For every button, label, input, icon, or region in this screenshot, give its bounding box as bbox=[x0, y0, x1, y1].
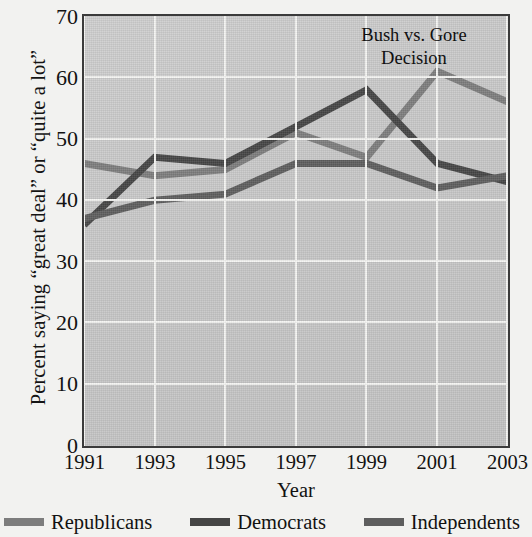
legend-swatch-icon bbox=[364, 518, 404, 526]
y-tick-label: 30 bbox=[12, 249, 78, 275]
y-tick-label: 60 bbox=[12, 65, 78, 91]
x-tick-label: 2003 bbox=[468, 451, 532, 474]
x-tick-label: 1995 bbox=[186, 451, 266, 474]
y-tick-label: 40 bbox=[12, 187, 78, 213]
y-tick-label: 20 bbox=[12, 310, 78, 336]
x-tick-label: 1997 bbox=[256, 451, 336, 474]
gridline-horizontal bbox=[84, 76, 508, 78]
gridline-horizontal bbox=[84, 260, 508, 262]
gridline-vertical bbox=[506, 16, 508, 446]
gridline-vertical bbox=[436, 16, 438, 446]
gridline-horizontal bbox=[84, 138, 508, 140]
annotation-line-1: Bush vs. Gore bbox=[334, 24, 494, 47]
x-tick-label: 1999 bbox=[327, 451, 407, 474]
gridline-horizontal bbox=[84, 383, 508, 385]
x-axis-label: Year bbox=[82, 479, 510, 502]
legend-label: Republicans bbox=[51, 511, 152, 534]
x-axis-tick-labels: 1991199319951997199920012003 bbox=[0, 451, 524, 481]
gridline-horizontal bbox=[84, 321, 508, 323]
chart-legend: RepublicansDemocratsIndependents bbox=[0, 508, 524, 536]
gridline-horizontal bbox=[84, 199, 508, 201]
legend-label: Independents bbox=[411, 511, 520, 534]
legend-swatch-icon bbox=[190, 518, 230, 526]
legend-label: Democrats bbox=[237, 511, 326, 534]
legend-swatch-icon bbox=[4, 518, 44, 526]
annotation-bush-vs-gore: Bush vs. Gore Decision bbox=[334, 24, 494, 69]
y-tick-label: 70 bbox=[12, 4, 78, 30]
legend-item[interactable]: Independents bbox=[364, 511, 520, 534]
gridline-vertical bbox=[295, 16, 297, 446]
plot-area bbox=[82, 14, 510, 448]
legend-item[interactable]: Republicans bbox=[4, 511, 152, 534]
gridline-vertical bbox=[83, 16, 85, 446]
annotation-line-2: Decision bbox=[334, 47, 494, 70]
x-tick-label: 1993 bbox=[115, 451, 195, 474]
plot-inner bbox=[84, 16, 508, 446]
y-tick-label: 50 bbox=[12, 126, 78, 152]
legend-item[interactable]: Democrats bbox=[190, 511, 326, 534]
gridline-vertical bbox=[365, 16, 367, 446]
y-tick-label: 10 bbox=[12, 371, 78, 397]
gridline-vertical bbox=[154, 16, 156, 446]
x-tick-label: 1991 bbox=[45, 451, 125, 474]
x-tick-label: 2001 bbox=[397, 451, 477, 474]
gridline-vertical bbox=[224, 16, 226, 446]
